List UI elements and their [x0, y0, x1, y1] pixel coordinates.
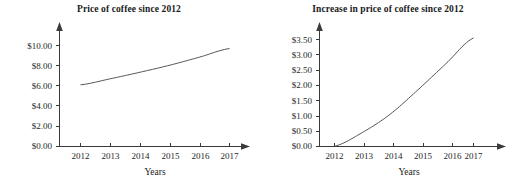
x-tick-label: 2014: [385, 151, 404, 161]
y-tick-label: $0.00: [292, 141, 313, 151]
two-chart-figure: Price of coffee since 2012 $10.00 $8.00 …: [0, 0, 517, 187]
x-tick-label: 2017: [221, 151, 240, 161]
y-tick-label: $0.00: [32, 141, 53, 151]
y-tick-label: $1.00: [292, 111, 313, 121]
x-tick-label: 2016: [192, 151, 211, 161]
y-tick-label: $6.00: [32, 81, 53, 91]
x-tick-marks: [335, 143, 474, 147]
x-tick-label: 2014: [132, 151, 151, 161]
increase-chart-svg: $3.50 $3.00 $2.50 $2.00 $1.50 $1.00 $0.5…: [259, 0, 517, 187]
price-chart-svg: $10.00 $8.00 $6.00 $4.00 $2.00 $0.00 201…: [0, 0, 258, 187]
y-tick-label: $10.00: [27, 41, 52, 51]
y-tick-marks: [316, 40, 320, 147]
x-tick-label: 2017: [465, 151, 484, 161]
increase-curve: [335, 38, 474, 146]
y-tick-label: $0.50: [292, 126, 313, 136]
x-axis-arrow-icon: [497, 143, 506, 150]
x-axis-arrow-icon: [241, 143, 250, 150]
x-tick-label: 2013: [102, 151, 121, 161]
chart-panel-price: Price of coffee since 2012 $10.00 $8.00 …: [0, 0, 258, 187]
y-axis-arrow-icon: [56, 22, 63, 31]
price-curve: [81, 49, 230, 85]
y-tick-label: $8.00: [32, 61, 53, 71]
y-tick-label: $3.50: [292, 35, 313, 45]
y-tick-label: $3.00: [292, 50, 313, 60]
y-tick-marks: [56, 46, 60, 147]
y-tick-label: $4.00: [32, 101, 53, 111]
chart-panel-increase: Increase in price of coffee since 2012 $…: [259, 0, 517, 187]
x-tick-label: 2012: [326, 151, 344, 161]
y-tick-label: $2.00: [32, 121, 53, 131]
y-tick-label: $2.50: [292, 65, 313, 75]
x-tick-label: 2013: [355, 151, 374, 161]
x-tick-label: 2015: [162, 151, 181, 161]
x-tick-label: 2016: [444, 151, 463, 161]
x-tick-label: 2015: [414, 151, 433, 161]
x-tick-label: 2012: [72, 151, 90, 161]
y-tick-label: $2.00: [292, 80, 313, 90]
y-axis-arrow-icon: [316, 22, 323, 31]
x-tick-marks: [81, 143, 230, 147]
y-tick-label: $1.50: [292, 96, 313, 106]
x-axis-title: Years: [144, 167, 166, 177]
x-axis-title: Years: [398, 167, 420, 177]
